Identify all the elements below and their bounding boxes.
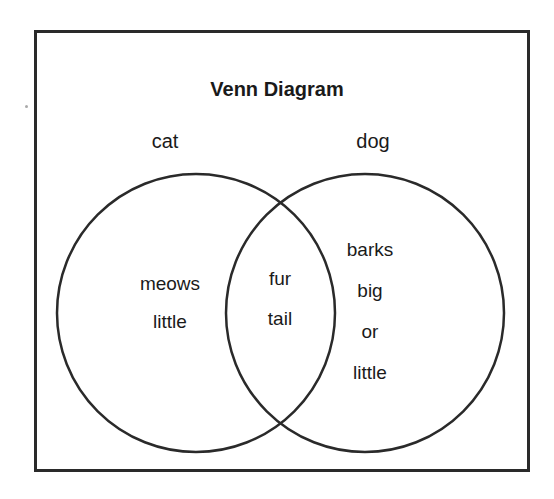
- cat-only-region: meows little: [120, 265, 220, 341]
- intersection-item: tail: [245, 299, 315, 339]
- dog-set-label: dog: [338, 130, 408, 153]
- dog-only-item: big: [330, 270, 410, 311]
- dog-only-item: little: [330, 352, 410, 393]
- dog-only-region: barks big or little: [330, 229, 410, 393]
- dog-only-item: barks: [330, 229, 410, 270]
- intersection-region: fur tail: [245, 259, 315, 339]
- cat-set-label: cat: [130, 130, 200, 153]
- cat-only-item: meows: [120, 265, 220, 303]
- venn-circles: [0, 0, 554, 499]
- dog-only-item: or: [330, 311, 410, 352]
- intersection-item: fur: [245, 259, 315, 299]
- diagram-title: Venn Diagram: [0, 78, 554, 101]
- cat-only-item: little: [120, 303, 220, 341]
